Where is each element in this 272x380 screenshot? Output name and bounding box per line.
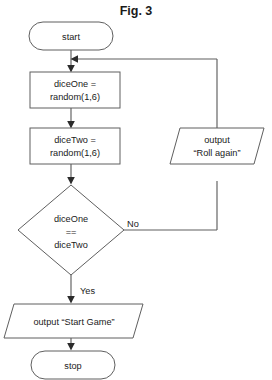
node-start-game-output[interactable]: output “Start Game” xyxy=(4,304,143,338)
edge-startgame-to-stop xyxy=(67,337,75,351)
node-dice-two[interactable]: diceTwo = random(1,6) xyxy=(30,128,120,164)
node-roll-again-label-line1: output xyxy=(204,135,230,145)
arrowhead-icon xyxy=(67,296,75,304)
node-compare-label-line3: diceTwo xyxy=(54,240,88,250)
node-dice-one-label-line2: random(1,6) xyxy=(50,92,100,102)
node-dice-one[interactable]: diceOne = random(1,6) xyxy=(30,72,120,108)
node-compare-label-line2: == xyxy=(66,227,77,237)
input-output-shape xyxy=(170,128,264,164)
node-stop[interactable]: stop xyxy=(31,351,115,379)
arrowhead-icon xyxy=(71,55,79,62)
node-start-label: start xyxy=(62,32,80,42)
node-dice-one-label-line1: diceOne = xyxy=(54,79,96,89)
node-start-game-label: output “Start Game” xyxy=(33,317,114,327)
edge-diceone-to-dicetwo xyxy=(67,107,75,129)
arrowhead-icon xyxy=(67,121,75,129)
arrowhead-icon xyxy=(67,65,75,73)
node-compare-label-line1: diceOne xyxy=(54,214,88,224)
arrowhead-icon xyxy=(67,177,75,185)
edge-start-to-diceone xyxy=(67,50,75,73)
flowchart-figure: Fig. 3 xyxy=(0,0,272,380)
figure-title: Fig. 3 xyxy=(120,4,153,18)
node-roll-again-label-line2: “Roll again” xyxy=(194,148,241,158)
node-stop-label: stop xyxy=(64,361,81,371)
process-shape xyxy=(30,72,120,108)
arrowhead-icon xyxy=(67,343,75,351)
flowchart-canvas: Fig. 3 xyxy=(0,0,272,380)
edge-label-yes: Yes xyxy=(80,286,95,296)
node-compare-decision[interactable]: diceOne == diceTwo xyxy=(18,185,124,275)
node-start[interactable]: start xyxy=(29,22,113,50)
process-shape xyxy=(30,128,120,164)
node-dice-two-label-line1: diceTwo = xyxy=(54,135,96,145)
node-dice-two-label-line2: random(1,6) xyxy=(50,148,100,158)
edge-label-no: No xyxy=(127,219,139,229)
node-roll-again-output[interactable]: output “Roll again” xyxy=(170,128,264,164)
edge-dicetwo-to-compare xyxy=(67,163,75,185)
